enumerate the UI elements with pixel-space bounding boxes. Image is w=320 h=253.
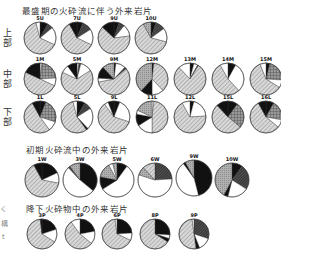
pie-label: 5M — [73, 56, 81, 62]
pie-label: 9M — [110, 56, 118, 62]
pie-10W — [215, 163, 249, 197]
pie-label: 5U — [36, 15, 44, 21]
pie-label: 4P — [76, 212, 83, 218]
pie-label: 6P — [113, 212, 120, 218]
pie-12L — [174, 101, 206, 133]
pie-label: 7U — [73, 15, 81, 21]
pie-9W — [176, 160, 212, 196]
pie-3P — [27, 219, 57, 249]
pie-1L — [24, 101, 56, 133]
pie-6W — [138, 163, 172, 197]
pie-label: 9P — [190, 212, 197, 218]
pie-12M — [136, 63, 168, 95]
pie-segment-black — [155, 219, 170, 235]
pie-14M — [212, 63, 244, 95]
pie-9M — [98, 63, 130, 95]
pie-5W — [100, 163, 134, 197]
pie-1W — [25, 163, 59, 197]
pie-8P — [140, 219, 170, 249]
pie-3W — [63, 163, 97, 197]
pie-label: 9U — [110, 15, 118, 21]
pie-16L — [250, 101, 281, 133]
pie-label: 11L — [147, 94, 157, 100]
pie-segment-diag — [152, 101, 168, 133]
pie-5L — [61, 101, 93, 133]
pie-label: 3W — [76, 156, 85, 162]
pie-4P — [65, 219, 95, 249]
pie-label: 1L — [37, 94, 44, 100]
pie-label: 15M — [260, 56, 272, 62]
pie-11L — [136, 101, 168, 133]
pie-label: 9L — [111, 94, 118, 100]
pie-label: 10U — [145, 15, 156, 21]
pie-label: 5W — [113, 156, 122, 162]
pie-1M — [24, 63, 56, 95]
pie-7U — [61, 22, 93, 54]
pie-label: 3P — [38, 212, 45, 218]
pie-label: 5L — [74, 94, 81, 100]
pie-label: 16L — [261, 94, 271, 100]
pie-label: 13M — [184, 56, 196, 62]
pie-10U — [135, 22, 167, 54]
pie-label: 6W — [151, 156, 160, 162]
pie-5M — [61, 63, 93, 95]
pie-9P — [179, 219, 209, 249]
pie-label: 9W — [190, 153, 199, 159]
pie-label: 8P — [151, 212, 158, 218]
pie-label: 15L — [223, 94, 233, 100]
pie-9U — [98, 22, 130, 54]
pie-5U — [24, 22, 56, 54]
pie-label: 1W — [38, 156, 47, 162]
pie-15M — [250, 63, 281, 95]
pie-label: 12L — [185, 94, 195, 100]
pie-6P — [102, 219, 132, 249]
pie-13M — [174, 63, 206, 95]
pie-9L — [98, 101, 130, 133]
pie-label: 12M — [146, 56, 158, 62]
pie-15L — [212, 101, 244, 133]
pie-label: 14M — [222, 56, 234, 62]
pie-label: 10W — [226, 156, 238, 162]
pie-label: 1M — [36, 56, 44, 62]
